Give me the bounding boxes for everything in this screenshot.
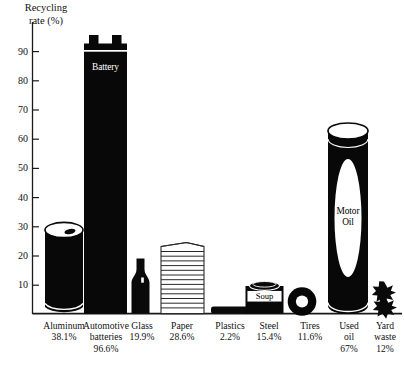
- y-tick-label-60: 60: [2, 134, 28, 144]
- y-tick-label-10: 10: [2, 280, 28, 290]
- bottle-body: [132, 270, 150, 314]
- category-pct-yard-waste: 12%: [376, 343, 394, 354]
- category-pct-glass: 19.9%: [130, 331, 155, 342]
- soup-label: Soup: [247, 291, 282, 302]
- battery-terminal-right: [112, 35, 122, 44]
- tire-hub: [296, 295, 308, 307]
- y-tick-label-90: 90: [2, 47, 28, 57]
- category-pct-paper: 28.6%: [170, 331, 195, 342]
- category-name-yard-waste-line1: Yard: [376, 320, 394, 331]
- category-name-steel: Steel: [259, 320, 278, 331]
- y-axis-title-line1: Recycling: [25, 2, 68, 13]
- category-name-yard-waste-line2: waste: [374, 331, 396, 342]
- battery-cap: [84, 44, 127, 51]
- y-tick-label-70: 70: [2, 105, 28, 115]
- category-name-plastics: Plastics: [215, 320, 244, 331]
- category-pct-automotive-batteries: 96.6%: [94, 343, 119, 354]
- y-tick-label-80: 80: [2, 76, 28, 86]
- battery-terminal-left: [89, 35, 99, 44]
- battery-body: [84, 52, 127, 314]
- y-axis-title: Recycling rate (%): [4, 2, 88, 27]
- y-axis-title-line2: rate (%): [29, 15, 63, 26]
- category-name-used-oil-line1: Used: [339, 320, 359, 331]
- category-pct-steel: 15.4%: [257, 331, 282, 342]
- y-tick-label-20: 20: [2, 251, 28, 261]
- bar-aluminum: [45, 222, 83, 312]
- category-name-tires: Tires: [300, 320, 319, 331]
- category-label-steel: Steel 15.4%: [247, 320, 291, 343]
- motor-oil-label-line2: Oil: [329, 217, 367, 228]
- y-tick-label-40: 40: [2, 193, 28, 203]
- oil-bottle-cap: [328, 123, 368, 139]
- motor-oil-label-line1: Motor: [329, 206, 367, 217]
- bar-tires: [288, 287, 317, 316]
- bar-paper: [161, 243, 204, 314]
- bottle-neck: [137, 259, 145, 271]
- recycling-rate-bar-chart: [0, 0, 404, 371]
- battery-label: Battery: [82, 62, 129, 73]
- category-pct-tires: 11.6%: [298, 331, 322, 342]
- category-pct-plastics: 2.2%: [220, 331, 240, 342]
- plastics-slab: [211, 307, 251, 314]
- can-lid: [45, 222, 83, 237]
- bar-automotive-batteries: [84, 35, 127, 314]
- category-name-paper: Paper: [171, 320, 193, 331]
- category-label-tires: Tires 11.6%: [287, 320, 333, 343]
- category-name-used-oil-line2: oil: [344, 331, 354, 342]
- bar-plastics: [211, 307, 251, 314]
- y-tick-label-50: 50: [2, 163, 28, 173]
- category-label-paper: Paper 28.6%: [157, 320, 207, 343]
- category-label-used-oil: Used oil 67%: [329, 320, 369, 354]
- y-tick-label-30: 30: [2, 222, 28, 232]
- category-label-yard-waste: Yard waste 12%: [366, 320, 404, 354]
- category-name-glass: Glass: [131, 320, 152, 331]
- category-pct-used-oil: 67%: [340, 343, 358, 354]
